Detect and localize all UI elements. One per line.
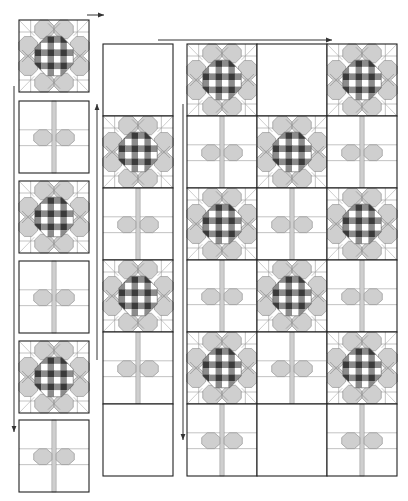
grid-flower-block bbox=[187, 44, 258, 116]
grid-stem-block bbox=[327, 260, 397, 332]
arrow-right-down-icon bbox=[181, 104, 186, 440]
grid-stem-block bbox=[327, 404, 397, 476]
grid-flower-block bbox=[327, 332, 398, 404]
left-flower-block bbox=[19, 181, 90, 253]
grid-flower-block bbox=[187, 188, 258, 260]
middle-stem-block bbox=[103, 332, 173, 404]
grid-stem-block bbox=[257, 188, 327, 260]
grid-stem-block bbox=[327, 116, 397, 188]
grid-stem-block bbox=[187, 260, 257, 332]
middle-blank-block bbox=[103, 44, 173, 116]
grid-stem-block bbox=[187, 404, 257, 476]
grid-flower-block bbox=[187, 332, 258, 404]
arrow-top-left-icon bbox=[87, 13, 104, 18]
arrow-top-right-icon bbox=[158, 38, 332, 43]
grid-flower-block bbox=[327, 44, 398, 116]
quilt-assembly-diagram bbox=[0, 0, 408, 501]
grid-stem-block bbox=[257, 332, 327, 404]
grid-flower-block bbox=[327, 188, 398, 260]
grid-stem-block bbox=[187, 116, 257, 188]
grid-flower-block bbox=[257, 260, 328, 332]
left-stem-block bbox=[19, 101, 89, 173]
left-flower-block bbox=[19, 20, 90, 92]
left-stem-block bbox=[19, 420, 89, 492]
middle-blank-block bbox=[103, 404, 173, 476]
arrow-left-down-icon bbox=[12, 86, 17, 432]
grid-blank-block bbox=[257, 44, 327, 116]
left-stem-block bbox=[19, 261, 89, 333]
middle-stem-block bbox=[103, 188, 173, 260]
grid-blank-block bbox=[257, 404, 327, 476]
arrow-middle-up-icon bbox=[95, 104, 100, 360]
grid-flower-block bbox=[257, 116, 328, 188]
left-flower-block bbox=[19, 341, 90, 413]
middle-flower-block bbox=[103, 116, 174, 188]
diagram-canvas bbox=[0, 0, 408, 501]
middle-flower-block bbox=[103, 260, 174, 332]
